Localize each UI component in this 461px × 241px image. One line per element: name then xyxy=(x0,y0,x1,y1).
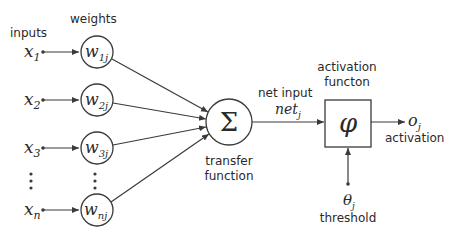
sigma-symbol: Σ xyxy=(220,107,238,137)
ellipsis-inputs xyxy=(29,172,32,189)
weights-label: weights xyxy=(70,12,117,26)
input-xn: xn xyxy=(24,199,41,222)
svg-text:function: function xyxy=(204,169,253,183)
net-j-symbol: netj xyxy=(275,101,301,120)
theta-j: θj xyxy=(343,191,355,211)
input-x1: x1 xyxy=(24,41,41,64)
input-row-2: x2 w2j xyxy=(24,84,113,116)
output-oj: oj xyxy=(408,111,421,132)
activation-function-label: activation xyxy=(317,60,376,74)
weight-to-sum-connections xyxy=(111,59,209,202)
activation-label: activation xyxy=(385,131,444,145)
input-x3: x3 xyxy=(24,137,41,160)
inputs-label: inputs xyxy=(10,26,47,40)
input-x2: x2 xyxy=(24,89,41,112)
net-input-label: net input xyxy=(258,86,313,100)
input-row-1: x1 w1j xyxy=(24,36,113,68)
input-row-n: xn wnj xyxy=(24,194,113,226)
input-row-3: x3 w3j xyxy=(24,132,113,164)
phi-symbol: φ xyxy=(339,108,358,138)
svg-text:functon: functon xyxy=(324,75,370,89)
threshold-label: threshold xyxy=(320,211,377,225)
transfer-function-label: transfer xyxy=(205,154,252,168)
ellipsis-weights xyxy=(93,172,96,189)
perceptron-diagram: inputs weights x1 w1j x2 w2j x3 w3j xn w… xyxy=(0,0,461,241)
